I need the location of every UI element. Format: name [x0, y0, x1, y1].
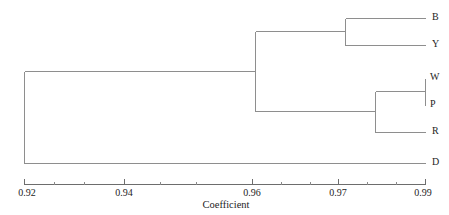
leaf-label-d: D: [432, 156, 439, 167]
leaf-label-r: R: [432, 125, 439, 136]
dendrogram-branches: [25, 19, 426, 164]
leaf-label-y: Y: [432, 38, 439, 49]
leaf-labels: B Y W P R D: [430, 11, 440, 167]
leaf-label-b: B: [432, 11, 439, 22]
tick-label-2: 0.96: [243, 187, 261, 198]
x-axis: 0.92 0.94 0.96 0.97 0.99 Coefficient: [18, 179, 432, 211]
tick-label-1: 0.94: [115, 187, 133, 198]
dendrogram-canvas: B Y W P R D 0.92 0.94: [0, 0, 449, 215]
axis-title: Coefficient: [202, 199, 249, 210]
dendrogram-figure: B Y W P R D 0.92 0.94: [0, 0, 449, 215]
tick-label-0: 0.92: [18, 187, 36, 198]
leaf-label-w: W: [430, 71, 440, 82]
tick-label-3: 0.97: [329, 187, 347, 198]
tick-label-4: 0.99: [414, 187, 432, 198]
leaf-label-p: P: [430, 98, 436, 109]
